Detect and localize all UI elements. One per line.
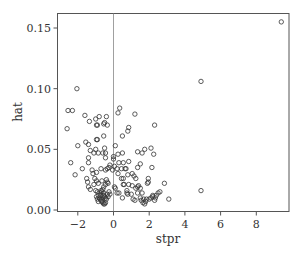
data-point xyxy=(143,147,147,151)
data-point xyxy=(162,181,166,185)
data-point xyxy=(87,119,91,123)
data-point xyxy=(80,167,84,171)
data-point xyxy=(199,79,203,83)
data-point xyxy=(103,151,107,155)
data-point xyxy=(135,150,139,154)
data-point xyxy=(116,171,120,175)
data-point xyxy=(135,165,139,169)
data-point xyxy=(121,161,125,165)
data-point xyxy=(84,140,88,144)
data-point xyxy=(120,196,124,200)
data-point xyxy=(96,151,100,155)
data-point xyxy=(73,173,77,177)
data-point xyxy=(102,146,106,150)
data-point xyxy=(70,108,74,112)
data-point xyxy=(152,123,156,127)
data-point xyxy=(120,151,124,155)
data-point xyxy=(118,106,122,110)
data-point xyxy=(110,168,114,172)
x-tick-label: −2 xyxy=(70,218,86,231)
data-point xyxy=(279,20,283,24)
scatter-chart: −202468 0.000.050.100.15 stpr hat xyxy=(0,0,305,259)
data-point xyxy=(152,152,156,156)
y-axis-label: hat xyxy=(11,102,25,122)
y-tick-label: 0.05 xyxy=(27,143,52,156)
data-point xyxy=(99,167,103,171)
data-point xyxy=(150,165,154,169)
data-point xyxy=(76,144,80,148)
data-point xyxy=(92,182,96,186)
data-point xyxy=(100,179,104,183)
data-point xyxy=(120,134,124,138)
data-point xyxy=(86,142,90,146)
data-point xyxy=(133,112,137,116)
x-axis-label: stpr xyxy=(156,232,181,246)
data-point xyxy=(116,152,120,156)
plot-frame xyxy=(58,14,290,212)
x-tick-label: 4 xyxy=(181,218,188,231)
data-point xyxy=(149,146,153,150)
data-point xyxy=(86,156,90,160)
y-tick-label: 0.00 xyxy=(27,204,52,217)
data-point xyxy=(69,161,73,165)
data-point xyxy=(86,161,90,165)
y-axis-ticks: 0.000.050.100.15 xyxy=(27,22,58,217)
data-point xyxy=(140,191,144,195)
data-point xyxy=(97,114,101,118)
x-tick-label: 0 xyxy=(110,218,117,231)
data-point xyxy=(199,188,203,192)
x-axis-ticks: −202468 xyxy=(70,212,260,232)
data-point xyxy=(117,161,121,165)
data-point xyxy=(127,159,131,163)
data-point xyxy=(102,134,106,138)
data-point xyxy=(66,108,70,112)
data-point xyxy=(102,120,106,124)
x-tick-label: 6 xyxy=(217,218,224,231)
data-point xyxy=(135,191,139,195)
x-tick-label: 2 xyxy=(146,218,153,231)
y-tick-label: 0.15 xyxy=(27,22,52,35)
data-point xyxy=(115,167,119,171)
y-tick-label: 0.10 xyxy=(27,83,52,96)
data-point xyxy=(104,114,108,118)
data-point xyxy=(106,181,110,185)
data-point xyxy=(65,127,69,131)
data-point xyxy=(75,87,79,91)
data-point xyxy=(126,173,130,177)
data-point xyxy=(167,197,171,201)
data-points xyxy=(65,20,284,206)
chart-canvas: −202468 0.000.050.100.15 stpr hat xyxy=(0,0,305,259)
data-point xyxy=(103,156,107,160)
x-tick-label: 8 xyxy=(253,218,260,231)
data-point xyxy=(83,113,87,117)
data-point xyxy=(116,111,120,115)
data-point xyxy=(92,151,96,155)
